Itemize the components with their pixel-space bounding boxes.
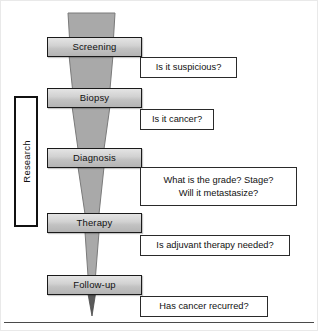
funnel-segment-top [68, 13, 115, 38]
callout-text-followup: Has cancer recurred? [159, 300, 248, 312]
funnel-segment-diagnosis-therapy [78, 167, 104, 214]
stage-box-therapy[interactable]: Therapy [47, 213, 142, 233]
callout-box-followup: Has cancer recurred? [140, 296, 268, 317]
callout-text-biopsy: Is it cancer? [152, 113, 202, 125]
callout-box-therapy: Is adjuvant therapy needed? [140, 235, 290, 256]
callout-box-diagnosis: What is the grade? Stage? Will it metast… [140, 167, 297, 206]
callout-text-diagnosis: What is the grade? Stage? Will it metast… [163, 174, 273, 199]
stage-label-followup: Follow-up [73, 280, 116, 290]
stage-box-screening[interactable]: Screening [47, 37, 142, 57]
funnel-segment-biopsy-diagnosis [72, 106, 110, 149]
funnel-segment-tip [88, 294, 96, 316]
funnel-segment-therapy-followup [85, 232, 99, 276]
funnel-segment-screening-biopsy [69, 55, 113, 89]
callout-box-screening: Is it suspicious? [140, 57, 237, 78]
stage-label-therapy: Therapy [77, 218, 113, 228]
stage-box-diagnosis[interactable]: Diagnosis [47, 148, 142, 168]
stage-label-screening: Screening [72, 42, 116, 52]
figure-canvas: Research Screening Biopsy Diagnosis Ther… [0, 0, 318, 331]
bottom-divider [4, 322, 314, 323]
research-bracket-label: Research [21, 140, 32, 182]
stage-box-biopsy[interactable]: Biopsy [47, 88, 142, 108]
stage-label-biopsy: Biopsy [80, 93, 109, 103]
research-bracket: Research [14, 96, 38, 227]
callout-text-screening: Is it suspicious? [156, 61, 222, 73]
stage-box-followup[interactable]: Follow-up [47, 275, 142, 295]
stage-label-diagnosis: Diagnosis [73, 153, 116, 163]
callout-box-biopsy: Is it cancer? [140, 109, 214, 130]
callout-text-therapy: Is adjuvant therapy needed? [156, 239, 273, 251]
